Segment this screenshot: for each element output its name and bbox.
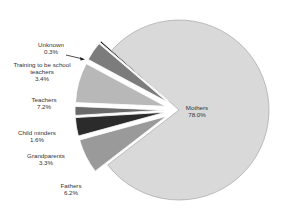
label-childminders: Child minders 1.6% — [18, 129, 56, 143]
label-fathers-name: Fathers — [61, 182, 82, 189]
label-training: Training to be school teachers 3.4% — [13, 61, 70, 82]
label-unknown: Unknown 0.3% — [38, 41, 64, 55]
label-childminders-pct: 1.6% — [30, 136, 45, 143]
label-unknown-pct: 0.3% — [44, 48, 59, 55]
label-mothers: Mothers 78.0% — [186, 104, 208, 118]
unknown-arrow-head — [80, 57, 85, 61]
label-training-line1: Training to be school — [13, 61, 70, 68]
label-grandparents-name: Grandparents — [27, 152, 65, 159]
pie-slices — [75, 20, 269, 200]
label-teachers: Teachers 7.2% — [31, 96, 56, 110]
label-grandparents-pct: 3.3% — [39, 159, 54, 166]
label-childminders-name: Child minders — [18, 129, 56, 136]
label-fathers: Fathers 6.2% — [61, 182, 82, 196]
label-mothers-name: Mothers — [186, 104, 208, 111]
label-teachers-name: Teachers — [31, 96, 56, 103]
label-mothers-pct: 78.0% — [188, 111, 206, 118]
label-training-line2: teachers — [30, 68, 54, 75]
label-grandparents: Grandparents 3.3% — [27, 152, 65, 166]
label-fathers-pct: 6.2% — [64, 189, 79, 196]
label-teachers-pct: 7.2% — [37, 103, 52, 110]
label-unknown-name: Unknown — [38, 41, 64, 48]
label-training-pct: 3.4% — [35, 75, 50, 82]
pie-chart: Mothers 78.0% Unknown 0.3% Training to b… — [0, 0, 282, 212]
